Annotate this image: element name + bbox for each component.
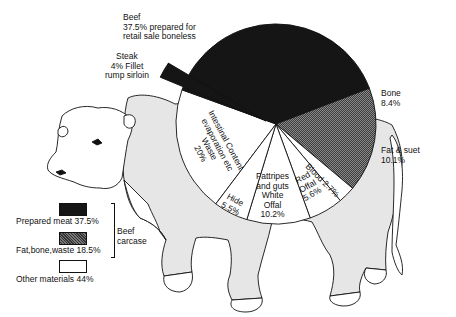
legend-swatch-prepared bbox=[59, 203, 87, 216]
legend-bracket bbox=[111, 203, 115, 258]
legend-swatch-fat-bone bbox=[59, 232, 87, 245]
label-steak: Steak 4% Fillet rump sirloin bbox=[105, 52, 149, 81]
label-bone: Bone 8.4% bbox=[381, 89, 401, 108]
legend-label-other: Other materials 44% bbox=[16, 275, 93, 285]
label-beef: Beef 37.5% prepared for retail sale bone… bbox=[123, 13, 196, 42]
label-white-offal: Fattripes and guts White Offal 10.2% bbox=[256, 172, 289, 220]
chart-figure: Beef 37.5% prepared for retail sale bone… bbox=[0, 0, 456, 317]
label-fat-suet: Fat & suet 10.1% bbox=[381, 146, 420, 165]
legend-bracket-label: Beef carcase bbox=[117, 227, 147, 246]
legend-label-prepared: Prepared meat 37.5% bbox=[16, 217, 99, 227]
legend-label-fat-bone: Fat,bone,waste 18.5% bbox=[16, 246, 101, 256]
legend-swatch-other bbox=[59, 260, 87, 273]
